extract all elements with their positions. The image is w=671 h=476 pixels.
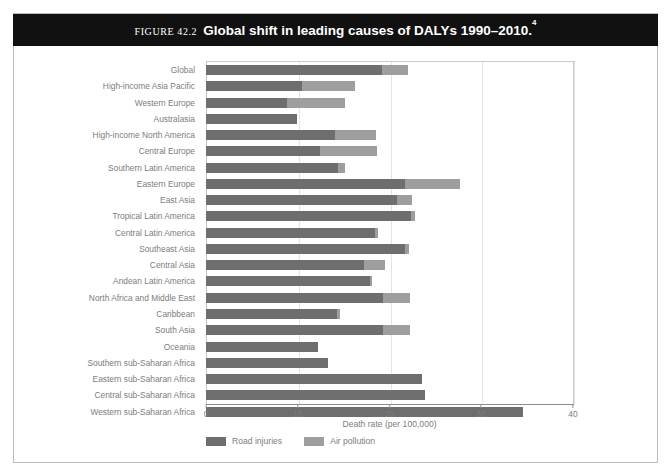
bar-segment-air-pollution[interactable] (364, 260, 385, 270)
bar-segment-road-injuries[interactable] (206, 244, 405, 254)
bar-segment-road-injuries[interactable] (206, 358, 328, 368)
bar-segment-air-pollution[interactable] (383, 293, 410, 303)
plot-right-border (573, 61, 574, 404)
bar-segment-road-injuries[interactable] (206, 65, 382, 75)
bar-segment-air-pollution[interactable] (320, 146, 377, 156)
x-tick-label: 20 (385, 409, 394, 419)
y-axis-label: High-income Asia Pacific (0, 78, 200, 94)
x-tick-label: 30 (477, 409, 486, 419)
stacked-bar[interactable] (206, 195, 412, 205)
bar-segment-road-injuries[interactable] (206, 374, 422, 384)
bar-segment-road-injuries[interactable] (206, 211, 411, 221)
bar-segment-road-injuries[interactable] (206, 309, 337, 319)
stacked-bar[interactable] (206, 374, 422, 384)
x-tick-label: 40 (568, 409, 577, 419)
bar-segment-road-injuries[interactable] (206, 98, 287, 108)
bar-segment-air-pollution[interactable] (287, 98, 345, 108)
bar-segment-road-injuries[interactable] (206, 293, 383, 303)
bar-row[interactable] (206, 111, 573, 127)
x-axis-line (206, 404, 574, 405)
bar-row[interactable] (206, 257, 573, 273)
bar-row[interactable] (206, 306, 573, 322)
bar-segment-air-pollution[interactable] (383, 325, 410, 335)
stacked-bar[interactable] (206, 146, 377, 156)
bar-segment-road-injuries[interactable] (206, 81, 302, 91)
stacked-bar[interactable] (206, 390, 425, 400)
y-axis-label: Central Asia (0, 257, 200, 273)
stacked-bar[interactable] (206, 81, 355, 91)
stacked-bar[interactable] (206, 114, 297, 124)
bar-segment-road-injuries[interactable] (206, 325, 383, 335)
stacked-bar[interactable] (206, 260, 385, 270)
stacked-bar[interactable] (206, 179, 460, 189)
bar-segment-road-injuries[interactable] (206, 146, 320, 156)
bar-row[interactable] (206, 160, 573, 176)
bar-segment-air-pollution[interactable] (370, 276, 372, 286)
y-axis-label: Andean Latin America (0, 273, 200, 289)
bar-segment-road-injuries[interactable] (206, 260, 364, 270)
bar-segment-air-pollution[interactable] (411, 211, 416, 221)
bar-segment-air-pollution[interactable] (405, 179, 460, 189)
y-axis-label: East Asia (0, 192, 200, 208)
bar-row[interactable] (206, 387, 573, 403)
gridline (574, 62, 575, 405)
stacked-bar[interactable] (206, 163, 345, 173)
y-axis-label: Oceania (0, 339, 200, 355)
bar-row[interactable] (206, 225, 573, 241)
bar-segment-air-pollution[interactable] (382, 65, 408, 75)
y-axis-label: Central sub-Saharan Africa (0, 387, 200, 403)
bar-row[interactable] (206, 208, 573, 224)
stacked-bar[interactable] (206, 358, 328, 368)
stacked-bar[interactable] (206, 325, 410, 335)
bar-segment-road-injuries[interactable] (206, 130, 335, 140)
stacked-bar[interactable] (206, 293, 410, 303)
legend-item[interactable]: Road injuries (206, 436, 282, 446)
stacked-bar[interactable] (206, 342, 318, 352)
stacked-bar[interactable] (206, 276, 372, 286)
bar-segment-road-injuries[interactable] (206, 114, 297, 124)
bar-row[interactable] (206, 290, 573, 306)
stacked-bar[interactable] (206, 211, 415, 221)
stacked-bar[interactable] (206, 309, 340, 319)
bar-segment-road-injuries[interactable] (206, 228, 375, 238)
stacked-bar[interactable] (206, 244, 409, 254)
bar-row[interactable] (206, 143, 573, 159)
bar-row[interactable] (206, 192, 573, 208)
bar-row[interactable] (206, 95, 573, 111)
bar-row[interactable] (206, 273, 573, 289)
bar-segment-air-pollution[interactable] (338, 163, 344, 173)
bar-segment-air-pollution[interactable] (337, 309, 340, 319)
y-axis-label: Western sub-Saharan Africa (0, 404, 200, 420)
stacked-bar[interactable] (206, 65, 408, 75)
bar-row[interactable] (206, 78, 573, 94)
stacked-bar[interactable] (206, 228, 378, 238)
y-axis-label: High-income North America (0, 127, 200, 143)
bar-row[interactable] (206, 355, 573, 371)
bar-segment-air-pollution[interactable] (375, 228, 378, 238)
bar-row[interactable] (206, 241, 573, 257)
x-tick-label: 10 (293, 409, 302, 419)
bar-segment-road-injuries[interactable] (206, 163, 338, 173)
y-axis-label: Central Latin America (0, 225, 200, 241)
bar-segment-air-pollution[interactable] (302, 81, 354, 91)
bar-row[interactable] (206, 176, 573, 192)
bar-row[interactable] (206, 371, 573, 387)
bar-segment-road-injuries[interactable] (206, 342, 318, 352)
stacked-bar[interactable] (206, 98, 345, 108)
y-axis-label: Caribbean (0, 306, 200, 322)
bar-row[interactable] (206, 339, 573, 355)
bar-segment-road-injuries[interactable] (206, 390, 425, 400)
bar-segment-road-injuries[interactable] (206, 195, 397, 205)
bar-segment-air-pollution[interactable] (397, 195, 413, 205)
stacked-bar[interactable] (206, 130, 376, 140)
bar-segment-road-injuries[interactable] (206, 179, 405, 189)
bar-segment-air-pollution[interactable] (335, 130, 375, 140)
bar-row[interactable] (206, 127, 573, 143)
y-axis-label: Southern Latin America (0, 160, 200, 176)
bar-segment-road-injuries[interactable] (206, 276, 370, 286)
legend-item[interactable]: Air pollution (304, 436, 375, 446)
y-axis-label: South Asia (0, 322, 200, 338)
bar-row[interactable] (206, 322, 573, 338)
bar-segment-air-pollution[interactable] (405, 244, 409, 254)
bar-row[interactable] (206, 62, 573, 78)
